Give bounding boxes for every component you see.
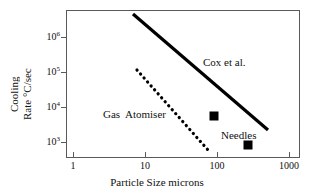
x-tick-label-10: 10	[140, 160, 150, 171]
y-tick-mantissa: 10	[47, 66, 57, 77]
annotation-needles: Needles	[221, 129, 256, 141]
x-tick-mark	[217, 152, 218, 158]
y-axis-title-line-2: Rate °C/sec	[21, 46, 33, 142]
y-tick-mantissa: 10	[47, 136, 57, 147]
x-axis-title: Particle Size microns	[0, 176, 314, 188]
y-tick-exponent: 4	[57, 100, 61, 108]
y-tick-label-1e6: 106	[20, 32, 60, 42]
x-tick-label-100: 100	[210, 160, 225, 171]
plot-frame	[66, 10, 300, 158]
y-tick-label-1e5: 105	[20, 67, 60, 77]
y-tick-mantissa: 10	[47, 101, 57, 112]
y-tick-label-1e4: 104	[20, 102, 60, 112]
y-tick-mantissa: 10	[47, 31, 57, 42]
x-tick-label-1: 1	[71, 160, 76, 171]
y-tick-label-1e3: 103	[20, 137, 60, 147]
x-tick-label-1000: 1000	[279, 160, 299, 171]
annotation-cox-et-al: Cox et al.	[203, 56, 245, 68]
y-tick-exponent: 3	[57, 135, 61, 143]
x-tick-mark	[73, 152, 74, 158]
y-tick-exponent: 6	[57, 30, 61, 38]
x-tick-mark	[145, 152, 146, 158]
y-tick-exponent: 5	[57, 65, 61, 73]
chart-figure: Cooling Rate °C/sec 106 105 104 103 1 10…	[0, 0, 314, 193]
y-axis-title: Cooling Rate °C/sec	[8, 46, 34, 142]
x-tick-mark	[289, 152, 290, 158]
y-axis-title-line-1: Cooling	[8, 46, 20, 142]
annotation-gas-atomiser: Gas Atomiser	[103, 108, 166, 120]
